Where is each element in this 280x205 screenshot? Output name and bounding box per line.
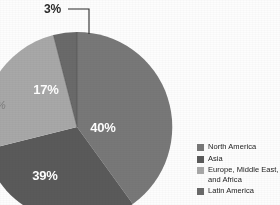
legend-swatch-latin-america xyxy=(197,188,204,195)
legend-swatch-asia xyxy=(197,156,204,163)
legend-swatch-north-america xyxy=(197,144,204,151)
legend-swatch-emea xyxy=(197,167,204,174)
legend: North America Asia Europe, Middle East, … xyxy=(197,142,280,198)
legend-item-emea[interactable]: Europe, Middle East, and Africa xyxy=(197,165,280,184)
legend-item-north-america[interactable]: North America xyxy=(197,142,280,152)
legend-label-emea-line2: and Africa xyxy=(208,175,279,185)
slice-label-north-america: 40% xyxy=(90,120,116,135)
chart-canvas: 40% 39% 17% 3% % North America Asia Euro… xyxy=(0,0,280,205)
pie-chart: 40% 39% 17% xyxy=(0,22,182,205)
slice-label-asia: 39% xyxy=(32,168,58,183)
legend-label-latin-america: Latin America xyxy=(208,186,254,196)
legend-item-asia[interactable]: Asia xyxy=(197,154,280,164)
pie-svg: 40% 39% 17% xyxy=(0,22,182,205)
legend-label-north-america: North America xyxy=(208,142,256,152)
clipped-edge-text: % xyxy=(0,99,6,111)
legend-label-emea: Europe, Middle East, and Africa xyxy=(208,165,279,184)
legend-label-asia: Asia xyxy=(208,154,223,164)
callout-leader-line xyxy=(44,2,124,36)
slice-label-emea: 17% xyxy=(33,82,59,97)
legend-item-latin-america[interactable]: Latin America xyxy=(197,186,280,196)
legend-label-emea-line1: Europe, Middle East, xyxy=(208,165,279,174)
callout-latin-america: 3% xyxy=(44,2,124,36)
